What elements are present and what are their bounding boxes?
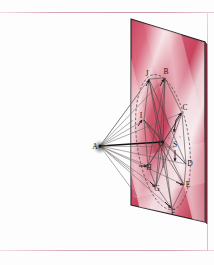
label-A: A — [92, 142, 98, 151]
projection-diagram: A J B I C D E F G H O S ° ° — [0, 0, 214, 265]
label-C: C — [182, 103, 187, 112]
angle-mark-2: ° — [179, 135, 181, 140]
scanned-page: A J B I C D E F G H O S ° ° — [0, 0, 214, 265]
plane-edge-right — [205, 42, 207, 224]
apex-dot — [99, 145, 102, 148]
label-J: J — [146, 69, 149, 78]
label-O: O — [158, 139, 164, 148]
label-H: H — [146, 163, 152, 172]
label-G: G — [154, 184, 160, 193]
angle-mark-1: ° — [168, 136, 170, 141]
label-B: B — [163, 67, 168, 76]
label-D: D — [187, 159, 193, 168]
label-S: S — [173, 140, 177, 149]
label-E: E — [186, 180, 191, 189]
label-F: F — [171, 208, 175, 217]
